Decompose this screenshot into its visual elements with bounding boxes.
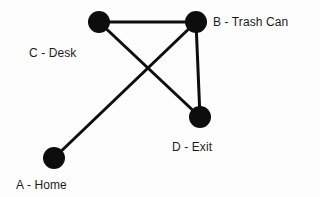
- edge-layer: [54, 22, 200, 158]
- node-label-d: D - Exit: [172, 141, 212, 153]
- graph-node-b[interactable]: [185, 11, 207, 33]
- graph-edge-c-d: [99, 22, 200, 117]
- graph-node-c[interactable]: [88, 11, 110, 33]
- node-label-b: B - Trash Can: [213, 16, 288, 28]
- node-label-c: C - Desk: [29, 47, 76, 59]
- graph-node-a[interactable]: [43, 147, 65, 169]
- graph-node-d[interactable]: [189, 106, 211, 128]
- graph-edge-b-d: [196, 22, 200, 117]
- node-label-a: A - Home: [16, 179, 67, 191]
- graph-edge-a-b: [54, 22, 196, 158]
- graph-diagram: [0, 0, 320, 197]
